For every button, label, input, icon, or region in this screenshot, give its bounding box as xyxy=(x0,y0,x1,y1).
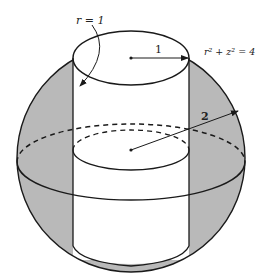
cylinder-equation-label: r = 1 xyxy=(76,14,104,27)
sphere-equation-label: r² + z² = 4 xyxy=(204,46,255,57)
sphere-radius-value-label: 2 xyxy=(201,110,209,123)
cylinder-radius-value-label: 1 xyxy=(155,43,162,56)
sphere-cylinder-diagram: 1 2 r = 1 r² + z² = 4 xyxy=(0,0,261,276)
